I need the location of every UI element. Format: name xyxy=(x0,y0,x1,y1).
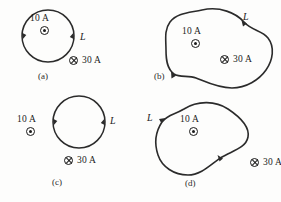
amperian-loop-figure: 10 A L 30 A (a) 10 A L 30 A (b) 10 A L xyxy=(0,0,281,202)
panel-letter-d: (d) xyxy=(185,179,196,188)
dot-in-circle-icon xyxy=(40,26,49,35)
loop-label-a: L xyxy=(80,32,86,42)
panel-letter-a: (a) xyxy=(38,72,48,81)
current-in-label-c: 30 A xyxy=(77,156,96,166)
current-out-label-d: 10 A xyxy=(180,115,199,125)
cross-in-circle-icon xyxy=(220,55,229,64)
panel-b: 10 A L 30 A (b) xyxy=(140,0,281,95)
current-in-label-b: 30 A xyxy=(233,55,252,65)
dot-in-circle-icon xyxy=(26,127,35,136)
panel-a-loop-path xyxy=(0,0,140,95)
cross-in-circle-icon xyxy=(64,156,73,165)
current-in-label-d: 30 A xyxy=(263,158,281,168)
current-out-label-b: 10 A xyxy=(182,27,201,37)
loop-label-b: L xyxy=(243,12,249,22)
panel-d: L 10 A 30 A (d) xyxy=(140,95,281,202)
panel-c: 10 A L 30 A (c) xyxy=(0,95,140,202)
current-in-label-a: 30 A xyxy=(82,56,101,66)
dot-in-circle-icon xyxy=(189,127,198,136)
dot-in-circle-icon xyxy=(191,39,200,48)
amperian-loop-circle xyxy=(53,96,105,148)
panel-letter-b: (b) xyxy=(154,72,165,81)
current-out-label-c: 10 A xyxy=(17,115,36,125)
amperian-loop-blob xyxy=(156,103,248,175)
current-out-label-a: 10 A xyxy=(30,14,49,24)
amperian-loop-blob xyxy=(166,9,273,88)
panel-letter-c: (c) xyxy=(52,178,62,187)
loop-label-d: L xyxy=(147,113,153,123)
panel-c-loop-path xyxy=(0,95,140,202)
loop-label-c: L xyxy=(110,116,116,126)
cross-in-circle-icon xyxy=(250,158,259,167)
cross-in-circle-icon xyxy=(69,56,78,65)
panel-d-loop-path xyxy=(140,95,281,202)
panel-a: 10 A L 30 A (a) xyxy=(0,0,140,95)
